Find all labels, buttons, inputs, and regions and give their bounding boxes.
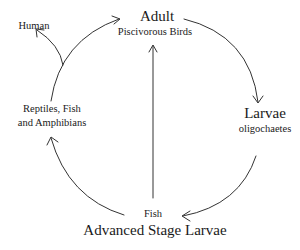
node-larvae: Larvae bbox=[240, 105, 290, 122]
adult-title: Adult bbox=[123, 8, 191, 25]
reptiles-line2: and Amphibians bbox=[12, 117, 92, 129]
node-advanced-stage-larvae: Advanced Stage Larvae bbox=[80, 222, 230, 239]
node-adult: Adult bbox=[123, 8, 191, 25]
larvae-subtitle: oligochaetes bbox=[235, 123, 295, 135]
node-human: Human bbox=[14, 20, 54, 32]
arrow-to-human bbox=[37, 30, 63, 65]
node-reptiles-fish-amphibians: Reptiles, Fish and Amphibians bbox=[12, 103, 92, 128]
advanced-subtitle: Fish bbox=[135, 208, 171, 220]
arrow-advanced-to-reptiles bbox=[51, 138, 124, 215]
reptiles-line1: Reptiles, Fish bbox=[12, 103, 92, 115]
arrow-larvae-to-advanced bbox=[183, 156, 256, 216]
adult-subtitle: Piscivorous Birds bbox=[110, 26, 200, 38]
larvae-title: Larvae bbox=[240, 105, 290, 122]
arrow-reptiles-to-adult bbox=[51, 19, 119, 101]
